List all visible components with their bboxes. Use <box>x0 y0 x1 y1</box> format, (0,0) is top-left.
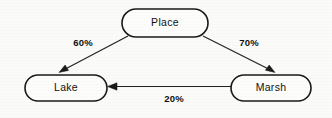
edge-label-place-to-lake: 60% <box>73 37 93 48</box>
edge-label-place-to-marsh: 70% <box>239 37 259 48</box>
node-place[interactable]: Place <box>122 9 208 37</box>
arrowhead-place-to-marsh <box>265 65 275 73</box>
node-place-label: Place <box>151 16 179 28</box>
node-lake[interactable]: Lake <box>25 75 107 101</box>
arrowhead-marsh-to-lake <box>108 83 118 90</box>
edge-label-marsh-to-lake: 20% <box>164 93 184 104</box>
node-lake-label: Lake <box>54 81 78 93</box>
edge-line-place-to-marsh <box>203 36 272 71</box>
flow-diagram: Place Lake Marsh 60% 70% 20% <box>0 0 332 118</box>
node-marsh-label: Marsh <box>256 81 287 93</box>
edge-place-to-lake <box>59 36 128 73</box>
edge-marsh-to-lake <box>108 83 232 90</box>
diagram-canvas: Place Lake Marsh 60% 70% 20% <box>0 0 332 118</box>
node-marsh[interactable]: Marsh <box>231 75 311 101</box>
arrowhead-place-to-lake <box>59 65 69 73</box>
